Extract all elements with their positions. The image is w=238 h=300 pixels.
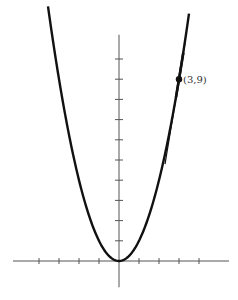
axes — [13, 35, 229, 288]
point-marker — [176, 76, 182, 82]
parabola-chart: (3,9) — [0, 0, 238, 300]
point-label: (3,9) — [183, 74, 207, 85]
